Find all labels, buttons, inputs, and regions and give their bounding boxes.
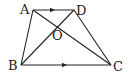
parallel-arrow-icon (50, 8, 55, 12)
segment-ab (21, 10, 33, 65)
point-label-b: B (8, 58, 18, 73)
segment-dc (74, 10, 111, 65)
parallel-arrow-icon (62, 63, 67, 67)
point-label-c: C (113, 59, 123, 74)
point-label-a: A (19, 2, 30, 17)
point-label-d: D (76, 3, 86, 18)
diagonal-bd (21, 10, 74, 65)
point-label-o: O (52, 28, 63, 43)
diagonal-ac (33, 10, 111, 65)
trapezoid-diagram: A D O B C (0, 0, 129, 77)
